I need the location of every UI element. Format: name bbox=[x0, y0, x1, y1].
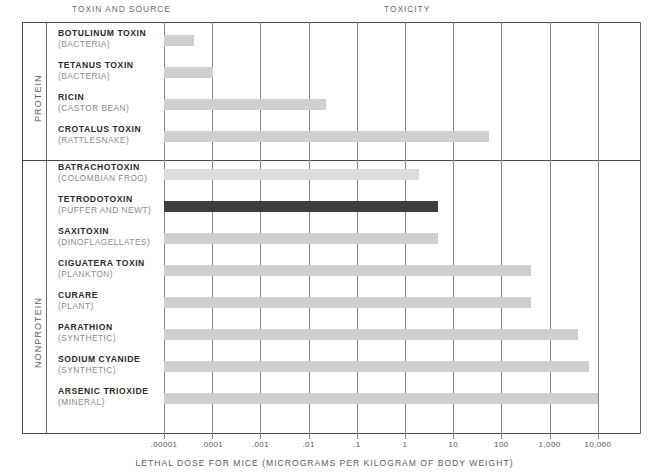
row-label: TETANUS TOXIN(BACTERIA) bbox=[58, 60, 176, 82]
toxicity-chart-figure: TOXIN AND SOURCE TOXICITY PROTEIN NONPRO… bbox=[0, 0, 649, 476]
row-label: CURARE(PLANT) bbox=[58, 290, 176, 312]
toxin-name: BOTULINUM TOXIN bbox=[58, 28, 176, 39]
row-label: ARSENIC TRIOXIDE(MINERAL) bbox=[58, 386, 176, 408]
bar bbox=[164, 67, 213, 78]
group-label-nonprotein: NONPROTEIN bbox=[33, 297, 43, 368]
bar bbox=[164, 99, 326, 110]
toxin-name: TETRODOTOXIN bbox=[58, 194, 176, 205]
axis-tick-label: 10,000 bbox=[584, 440, 611, 449]
toxin-source: (PUFFER AND NEWT) bbox=[58, 205, 176, 216]
toxin-name: CIGUATERA TOXIN bbox=[58, 258, 176, 269]
toxin-source: (BACTERIA) bbox=[58, 71, 176, 82]
toxin-name: ARSENIC TRIOXIDE bbox=[58, 386, 176, 397]
toxin-name: SODIUM CYANIDE bbox=[58, 354, 176, 365]
row-label: SAXITOXIN(DINOFLAGELLATES) bbox=[58, 226, 176, 248]
axis-tick-label: .0001 bbox=[201, 440, 223, 449]
toxin-name: TETANUS TOXIN bbox=[58, 60, 176, 71]
row-label: PARATHION(SYNTHETIC) bbox=[58, 322, 176, 344]
bar bbox=[164, 329, 578, 340]
axis-tick-label: 1,000 bbox=[539, 440, 561, 449]
bar bbox=[164, 265, 531, 276]
group-label-protein: PROTEIN bbox=[33, 74, 43, 122]
toxin-name: CURARE bbox=[58, 290, 176, 301]
row-label: SODIUM CYANIDE(SYNTHETIC) bbox=[58, 354, 176, 376]
toxin-source: (RATTLESNAKE) bbox=[58, 135, 176, 146]
toxin-source: (COLOMBIAN FROG) bbox=[58, 173, 176, 184]
table-row: CIGUATERA TOXIN(PLANKTON) bbox=[46, 256, 649, 288]
axis-tick bbox=[501, 434, 502, 439]
table-row: TETRODOTOXIN(PUFFER AND NEWT) bbox=[46, 192, 649, 224]
axis-tick-label: 100 bbox=[494, 440, 509, 449]
axis-tick-label: 1 bbox=[403, 440, 408, 449]
toxin-source: (PLANKTON) bbox=[58, 269, 176, 280]
axis-tick bbox=[309, 434, 310, 439]
row-label: TETRODOTOXIN(PUFFER AND NEWT) bbox=[58, 194, 176, 216]
axis-tick-label: .01 bbox=[302, 440, 314, 449]
axis-tick bbox=[260, 434, 261, 439]
table-row: RICIN(CASTOR BEAN) bbox=[46, 90, 649, 122]
bar bbox=[164, 169, 419, 180]
table-row: BATRACHOTOXIN(COLOMBIAN FROG) bbox=[46, 160, 649, 192]
table-row: BOTULINUM TOXIN(BACTERIA) bbox=[46, 26, 649, 58]
axis-tick-label: .1 bbox=[353, 440, 360, 449]
table-row: CROTALUS TOXIN(RATTLESNAKE) bbox=[46, 122, 649, 154]
toxin-source: (MINERAL) bbox=[58, 397, 176, 408]
bar bbox=[164, 131, 489, 142]
axis-tick-label: 10 bbox=[448, 440, 458, 449]
row-label: CIGUATERA TOXIN(PLANKTON) bbox=[58, 258, 176, 280]
axis-tick bbox=[212, 434, 213, 439]
toxin-source: (BACTERIA) bbox=[58, 39, 176, 50]
axis-tick-label: .001 bbox=[252, 440, 269, 449]
axis-tick bbox=[598, 434, 599, 439]
row-label: BATRACHOTOXIN(COLOMBIAN FROG) bbox=[58, 162, 176, 184]
table-row: TETANUS TOXIN(BACTERIA) bbox=[46, 58, 649, 90]
toxin-source: (SYNTHETIC) bbox=[58, 365, 176, 376]
row-label: CROTALUS TOXIN(RATTLESNAKE) bbox=[58, 124, 176, 146]
axis-tick bbox=[550, 434, 551, 439]
table-row: ARSENIC TRIOXIDE(MINERAL) bbox=[46, 384, 649, 416]
table-row: SODIUM CYANIDE(SYNTHETIC) bbox=[46, 352, 649, 384]
toxin-name: RICIN bbox=[58, 92, 176, 103]
frame-left-rule bbox=[22, 22, 23, 434]
axis-title: LETHAL DOSE FOR MICE (MICROGRAMS PER KIL… bbox=[0, 458, 649, 468]
axis-tick bbox=[453, 434, 454, 439]
bar bbox=[164, 393, 598, 404]
row-label: RICIN(CASTOR BEAN) bbox=[58, 92, 176, 114]
toxin-source: (CASTOR BEAN) bbox=[58, 103, 176, 114]
bar bbox=[164, 35, 194, 46]
axis-tick bbox=[164, 434, 165, 439]
table-row: PARATHION(SYNTHETIC) bbox=[46, 320, 649, 352]
bar bbox=[164, 297, 531, 308]
axis-tick bbox=[357, 434, 358, 439]
toxin-name: BATRACHOTOXIN bbox=[58, 162, 176, 173]
toxin-name: CROTALUS TOXIN bbox=[58, 124, 176, 135]
table-row: SAXITOXIN(DINOFLAGELLATES) bbox=[46, 224, 649, 256]
bar bbox=[164, 233, 438, 244]
toxin-name: SAXITOXIN bbox=[58, 226, 176, 237]
toxin-source: (SYNTHETIC) bbox=[58, 333, 176, 344]
axis-tick-label: .00001 bbox=[151, 440, 178, 449]
bar bbox=[164, 201, 438, 212]
toxin-source: (PLANT) bbox=[58, 301, 176, 312]
toxin-source: (DINOFLAGELLATES) bbox=[58, 237, 176, 248]
axis-tick bbox=[405, 434, 406, 439]
bar bbox=[164, 361, 589, 372]
column-header-toxin-and-source: TOXIN AND SOURCE bbox=[72, 4, 171, 14]
table-row: CURARE(PLANT) bbox=[46, 288, 649, 320]
toxin-name: PARATHION bbox=[58, 322, 176, 333]
row-label: BOTULINUM TOXIN(BACTERIA) bbox=[58, 28, 176, 50]
column-header-toxicity: TOXICITY bbox=[384, 4, 430, 14]
